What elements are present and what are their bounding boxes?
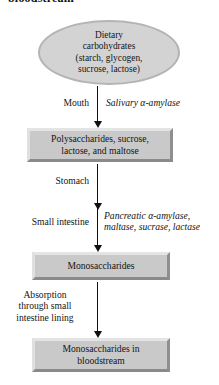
blood-line-1: Monosaccharides in	[63, 343, 140, 355]
node-dietary-carbohydrates-label: Dietary carbohydrates (starch, glycogen,…	[70, 30, 149, 76]
node-monosaccharides-label: Monosaccharides	[67, 260, 134, 272]
arrow-absorption	[97, 282, 98, 332]
absorption-line-1: Absorption	[0, 289, 90, 300]
poly-line-2: lactose, and maltose	[51, 145, 149, 157]
arrow-small-intestine	[97, 208, 98, 246]
node-monosaccharides: Monosaccharides	[32, 252, 170, 280]
cropped-heading-text: bloodstream	[8, 0, 74, 6]
label-salivary-amylase: Salivary α-amylase	[106, 97, 219, 108]
ellipse-line-1: Dietary	[76, 30, 143, 41]
node-monosaccharides-bloodstream-label: Monosaccharides in bloodstream	[63, 343, 140, 366]
label-pancreatic-enzymes: Pancreatic α-amylase, maltase, sucrase, …	[104, 210, 219, 233]
node-monosaccharides-bloodstream: Monosaccharides in bloodstream	[32, 338, 170, 372]
ellipse-line-4: sucrose, lactose)	[76, 64, 143, 75]
blood-line-2: bloodstream	[63, 355, 140, 367]
pancreatic-line-1: Pancreatic α-amylase,	[104, 210, 219, 221]
label-absorption: Absorption through small intestine linin…	[0, 289, 90, 323]
label-small-intestine: Small intestine	[0, 216, 89, 227]
ellipse-line-2: carbohydrates	[76, 41, 143, 52]
label-stomach: Stomach	[0, 175, 89, 186]
node-polysaccharides-label: Polysaccharides, sucrose, lactose, and m…	[51, 133, 149, 156]
arrow-mouth	[97, 86, 98, 122]
absorption-line-2: through small	[0, 300, 90, 311]
node-polysaccharides: Polysaccharides, sucrose, lactose, and m…	[27, 128, 173, 162]
arrow-stomach	[97, 164, 98, 204]
cropped-heading: bloodstream	[0, 0, 219, 7]
ellipse-line-3: (starch, glycogen,	[76, 53, 143, 64]
pancreatic-line-2: maltase, sucrase, lactase	[104, 221, 219, 232]
node-dietary-carbohydrates: Dietary carbohydrates (starch, glycogen,…	[38, 20, 180, 85]
poly-line-1: Polysaccharides, sucrose,	[51, 133, 149, 145]
absorption-line-3: intestine lining	[0, 312, 90, 323]
label-mouth: Mouth	[0, 97, 89, 108]
